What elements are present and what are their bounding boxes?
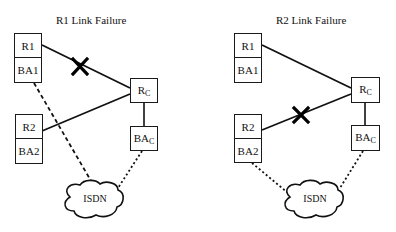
rc-label: RC — [359, 83, 372, 97]
dial-ba1-isdn — [34, 83, 94, 186]
failure-x-icon — [294, 108, 308, 122]
backup-adapter-ba1: BA1 — [234, 57, 262, 83]
router-r1-label: R1 — [242, 40, 255, 52]
panel-r1-link-failure: R1 Link Failure R1 BA1 R2 BA2 RC BAC ISD… — [0, 0, 198, 232]
bac-label: BAC — [134, 132, 155, 146]
ba1-label: BA1 — [238, 64, 259, 76]
ba2-label: BA2 — [19, 145, 40, 157]
isdn-label: ISDN — [65, 193, 125, 204]
ba2-label: BA2 — [238, 145, 259, 157]
router-r2: R2 — [15, 114, 43, 139]
backup-adapter-ba2: BA2 — [15, 138, 43, 164]
isdn-label: ISDN — [285, 193, 345, 204]
link-r1-rc — [42, 45, 130, 88]
link-r1-rc — [262, 45, 351, 88]
backup-adapter-ba2: BA2 — [234, 138, 262, 163]
bac-label: BAC — [355, 131, 376, 145]
backup-adapter-bac: BAC — [351, 125, 380, 151]
router-r1: R1 — [234, 33, 262, 58]
router-rc: RC — [351, 77, 380, 103]
router-r2-label: R2 — [242, 121, 255, 133]
link-r2-rc — [42, 94, 130, 131]
backup-adapter-ba1: BA1 — [14, 57, 42, 83]
router-rc: RC — [130, 78, 158, 103]
rc-label: RC — [138, 84, 151, 98]
panel-r2-link-failure: R2 Link Failure R1 BA1 R2 BA2 RC BAC ISD… — [198, 0, 396, 232]
router-r1-label: R1 — [22, 40, 35, 52]
backup-adapter-bac: BAC — [130, 126, 158, 151]
dial-ba2-isdn — [252, 163, 288, 193]
dial-bac-isdn — [340, 151, 363, 188]
router-r1: R1 — [14, 33, 42, 58]
router-r2: R2 — [234, 114, 262, 139]
dial-bac-isdn — [118, 151, 142, 188]
ba1-label: BA1 — [18, 64, 39, 76]
panel-title: R2 Link Failure — [276, 14, 346, 26]
panel-title: R1 Link Failure — [56, 14, 126, 26]
router-r2-label: R2 — [23, 121, 36, 133]
link-r2-rc — [262, 94, 351, 130]
